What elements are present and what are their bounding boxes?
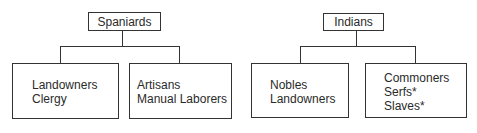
indians-upper-class-box: Nobles Landowners: [251, 63, 349, 118]
connector-stem: [356, 31, 357, 47]
spaniards-head-box: Spaniards: [88, 12, 161, 31]
class-item: Commoners: [384, 71, 449, 85]
connector-drop-left: [60, 46, 61, 63]
class-item: Slaves*: [384, 99, 449, 113]
spaniards-upper-class-box: Landowners Clergy: [12, 63, 119, 119]
connector-bar: [60, 46, 180, 47]
class-item: Manual Laborers: [137, 92, 227, 106]
connector-bar: [300, 46, 416, 47]
connector-drop-right: [179, 46, 180, 63]
spaniards-lower-class-box: Artisans Manual Laborers: [129, 63, 232, 119]
class-item: Clergy: [32, 92, 97, 106]
class-item: Nobles: [270, 78, 335, 92]
indians-lower-class-box: Commoners Serfs* Slaves*: [365, 63, 467, 118]
class-item: Landowners: [32, 78, 97, 92]
connector-drop-right: [415, 46, 416, 63]
connector-stem: [122, 31, 123, 47]
indians-title: Indians: [334, 15, 373, 29]
class-item: Landowners: [270, 92, 335, 106]
class-item: Serfs*: [384, 85, 449, 99]
connector-drop-left: [300, 46, 301, 63]
class-item: Artisans: [137, 78, 227, 92]
indians-head-box: Indians: [323, 13, 384, 31]
spaniards-title: Spaniards: [97, 15, 151, 29]
